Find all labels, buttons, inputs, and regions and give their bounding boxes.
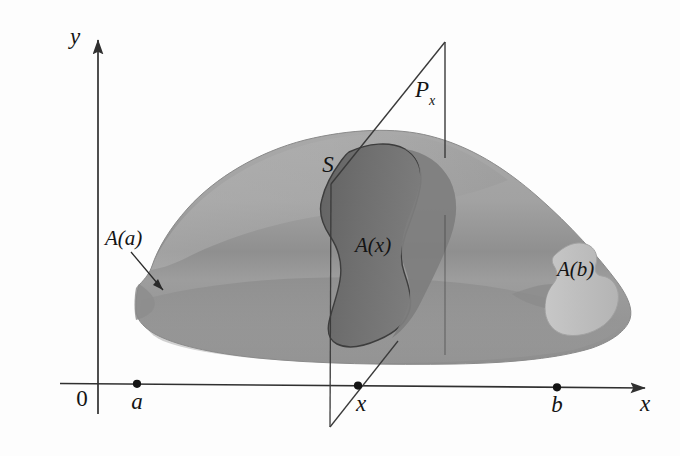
x-axis-label: x	[639, 391, 651, 416]
tick-dot-x	[354, 382, 362, 390]
plane-label-px: P x	[414, 77, 436, 108]
tick-dot-b	[553, 383, 561, 391]
solid-label-s: S	[322, 152, 334, 177]
tick-label-a: a	[131, 389, 143, 414]
area-label-aa: A(a)	[103, 226, 142, 250]
tick-label-x: x	[355, 391, 367, 416]
plane-label-subscript-x: x	[428, 93, 436, 108]
origin-label: 0	[76, 386, 88, 411]
tick-label-b: b	[551, 392, 563, 417]
area-label-ab: A(b)	[555, 257, 594, 281]
plane-label-p: P	[414, 77, 429, 102]
tick-dot-a	[133, 380, 141, 388]
volume-cross-section-figure: y x 0 a x b S P x A(a) A(x) A(b)	[0, 0, 680, 456]
y-axis-label: y	[68, 24, 81, 49]
area-label-ax: A(x)	[353, 233, 391, 257]
diagram-canvas: y x 0 a x b S P x A(a) A(x) A(b)	[0, 0, 680, 456]
